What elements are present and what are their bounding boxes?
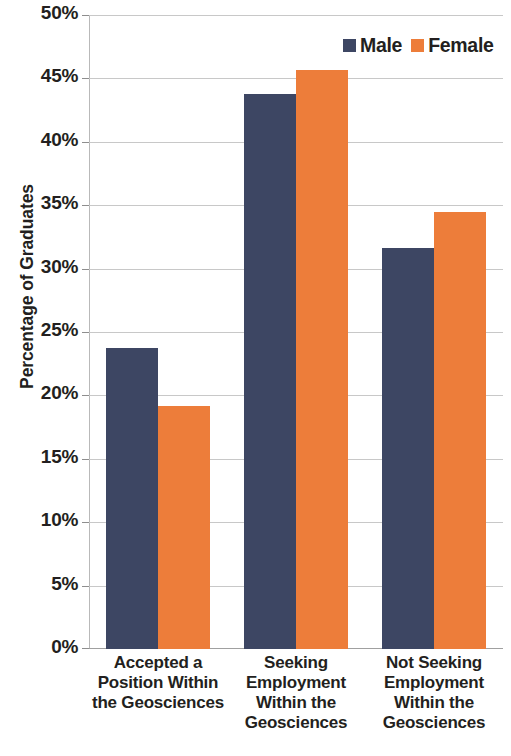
y-tick-label: 30% [0,256,78,278]
y-tick-mark [82,269,89,270]
x-axis-label-line: Geosciences [365,713,503,733]
bar-female-group-1[interactable] [158,406,210,649]
y-tick-label: 0% [0,636,78,658]
bar-male-group-2[interactable] [244,94,296,649]
y-tick-mark [82,522,89,523]
x-axis-label-line: Geosciences [227,713,365,733]
x-axis-label-line: Within the [365,693,503,713]
gridline-50 [89,15,503,16]
x-axis-label-line: Employment [365,673,503,693]
x-axis-label-group-3: Not SeekingEmploymentWithin theGeoscienc… [365,653,503,733]
x-axis-label-line: Employment [227,673,365,693]
y-tick-label: 50% [0,2,78,24]
legend-entry-male[interactable]: Male [343,34,402,57]
y-tick-label: 20% [0,382,78,404]
x-axis-label-line: Not Seeking [365,653,503,673]
y-tick-label: 45% [0,65,78,87]
y-tick-label: 15% [0,446,78,468]
legend-entry-female[interactable]: Female [411,34,493,57]
x-axis-label-line: Within the [227,693,365,713]
y-tick-mark [82,648,89,649]
legend-swatch-female-icon [411,39,424,52]
y-tick-mark [82,78,89,79]
bar-female-group-2[interactable] [296,70,348,649]
y-tick-mark [82,15,89,16]
x-axis-label-group-1: Accepted aPosition Withinthe Geosciences [89,653,227,713]
y-tick-mark [82,586,89,587]
y-tick-label: 40% [0,129,78,151]
y-tick-label: 35% [0,192,78,214]
y-tick-mark [82,332,89,333]
bar-male-group-3[interactable] [382,248,434,649]
bar-male-group-1[interactable] [106,348,158,649]
y-tick-label: 5% [0,573,78,595]
x-axis-label-line: Accepted a [89,653,227,673]
bar-chart: Percentage of Graduates Male Female 0%5%… [0,0,511,756]
x-axis-label-group-2: SeekingEmploymentWithin theGeosciences [227,653,365,733]
legend-label-male: Male [360,34,402,57]
y-tick-label: 10% [0,509,78,531]
y-tick-mark [82,395,89,396]
x-axis-label-line: Seeking [227,653,365,673]
y-tick-mark [82,142,89,143]
x-axis-label-line: the Geosciences [89,693,227,713]
bar-female-group-3[interactable] [434,212,486,649]
y-tick-mark [82,205,89,206]
x-axis-label-line: Position Within [89,673,227,693]
legend: Male Female [343,34,494,57]
y-tick-label: 25% [0,319,78,341]
legend-label-female: Female [428,34,493,57]
y-tick-mark [82,459,89,460]
plot-area [89,15,503,649]
legend-swatch-male-icon [343,39,356,52]
